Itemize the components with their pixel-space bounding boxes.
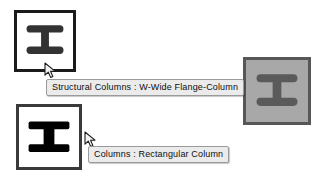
screenshot-canvas: Structural Columns : W-Wide Flange-Colum… xyxy=(0,0,328,188)
disabled-column-icon-tile xyxy=(243,57,311,125)
i-beam-column-icon xyxy=(246,60,308,122)
i-beam-column-icon xyxy=(17,13,73,69)
rectangular-column-icon-tile[interactable] xyxy=(16,104,82,170)
tooltip-structural-columns: Structural Columns : W-Wide Flange-Colum… xyxy=(46,79,244,96)
tooltip-columns: Columns : Rectangular Column xyxy=(88,146,229,163)
i-beam-column-icon xyxy=(19,107,79,167)
structural-column-icon-tile[interactable] xyxy=(14,10,76,72)
